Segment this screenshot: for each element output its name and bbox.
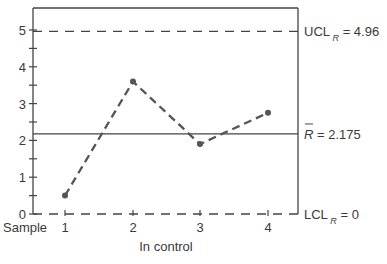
data-series: [62, 79, 271, 199]
data-point: [62, 193, 68, 199]
x-tick-label: 4: [264, 220, 271, 235]
x-axis-prefix: Sample: [3, 220, 47, 235]
y-axis: 012345: [19, 23, 37, 222]
y-tick-label: 1: [19, 170, 26, 185]
data-point: [197, 141, 203, 147]
control-limit-lines: [33, 31, 298, 214]
LCL_R-label: LCL R = 0: [304, 207, 359, 226]
data-point: [265, 110, 271, 116]
limit-labels: UCL R = 4.96R = 2.175LCL R = 0: [304, 24, 379, 226]
x-axis-title: In control: [139, 239, 193, 254]
UCL_R-label: UCL R = 4.96: [304, 24, 379, 43]
y-tick-label: 5: [19, 23, 26, 38]
x-tick-label: 1: [61, 220, 68, 235]
R_bar-label: R = 2.175: [304, 127, 361, 142]
y-tick-label: 3: [19, 97, 26, 112]
y-tick-label: 4: [19, 60, 26, 75]
x-tick-label: 3: [196, 220, 203, 235]
range-line: [65, 82, 268, 196]
data-point: [130, 79, 136, 85]
x-tick-label: 2: [129, 220, 136, 235]
y-tick-label: 2: [19, 133, 26, 148]
r-chart: 012345 1234 UCL R = 4.96R = 2.175LCL R =…: [0, 0, 387, 264]
